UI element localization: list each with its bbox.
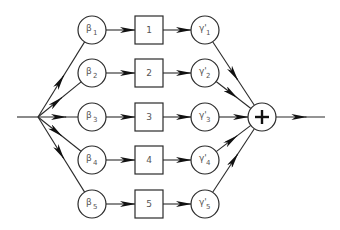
block-2-label: 2 — [146, 68, 152, 78]
edges — [17, 30, 325, 204]
block-3: 3 — [135, 103, 163, 131]
gamma-2-to-sum-arrow-arrowhead — [236, 97, 237, 98]
gamma-4-node: γ'4 — [191, 146, 219, 174]
beta-4-node: β4 — [78, 146, 106, 174]
block-5: 5 — [135, 190, 163, 218]
beta-4-symbol: β — [86, 153, 92, 163]
gamma-1-node: γ'1 — [191, 16, 219, 44]
beta-1-node: β1 — [78, 16, 106, 44]
gamma-5-node: γ'5 — [191, 190, 219, 218]
beta-5-circle — [78, 190, 106, 218]
beta-5-node: β5 — [78, 190, 106, 218]
block-1: 1 — [135, 16, 163, 44]
split-to-beta-1-arrow-arrowhead — [63, 76, 64, 78]
gamma-5-to-sum-arrow-arrowhead — [237, 154, 238, 155]
beta-3-symbol: β — [86, 110, 92, 120]
gamma-1-to-sum-arrow-arrowhead — [237, 79, 238, 80]
beta-2-node: β2 — [78, 59, 106, 87]
split-to-beta-4-arrow-arrowhead — [61, 135, 62, 136]
gamma-3-node: γ'3 — [191, 103, 219, 131]
parallel-block-diagram: β11γ'1β22γ'2β33γ'3β44γ'4β55γ'5 — [0, 0, 340, 230]
block-1-label: 1 — [146, 25, 152, 35]
beta-5-symbol: β — [86, 197, 92, 207]
beta-4-subscript: 4 — [93, 159, 98, 167]
split-to-beta-5-arrow-arrowhead — [63, 157, 64, 159]
gamma-2-node: γ'2 — [191, 59, 219, 87]
split-to-beta-2-arrow — [38, 82, 81, 117]
split-to-beta-5-arrow — [38, 117, 85, 192]
split-to-beta-4-arrow — [38, 117, 81, 151]
beta-1-symbol: β — [86, 23, 92, 33]
split-to-beta-1-arrow — [38, 42, 85, 117]
block-4-label: 4 — [146, 155, 152, 165]
block-2: 2 — [135, 59, 163, 87]
block-3-label: 3 — [146, 112, 152, 122]
split-to-beta-2-arrow-arrowhead — [61, 98, 62, 99]
beta-2-subscript: 2 — [93, 72, 97, 80]
gamma-5-subscript: 5 — [206, 203, 210, 211]
gamma-2-to-sum-arrow — [216, 82, 251, 109]
gamma-4-subscript: 4 — [206, 159, 211, 167]
beta-2-circle — [78, 59, 106, 87]
gamma-4-to-sum-arrow — [216, 125, 251, 151]
gamma-4-to-sum-arrow-arrowhead — [236, 136, 237, 137]
block-5-label: 5 — [146, 199, 152, 209]
gamma-3-subscript: 3 — [206, 116, 210, 124]
beta-5-subscript: 5 — [93, 203, 97, 211]
beta-4-circle — [78, 146, 106, 174]
gamma-1-subscript: 1 — [206, 29, 210, 37]
beta-1-circle — [78, 16, 106, 44]
beta-3-circle — [78, 103, 106, 131]
block-4: 4 — [135, 146, 163, 174]
beta-2-symbol: β — [86, 66, 92, 76]
sum-node — [248, 103, 276, 131]
gamma-2-subscript: 2 — [206, 72, 210, 80]
beta-3-subscript: 3 — [93, 116, 97, 124]
beta-3-node: β3 — [78, 103, 106, 131]
beta-1-subscript: 1 — [93, 29, 97, 37]
